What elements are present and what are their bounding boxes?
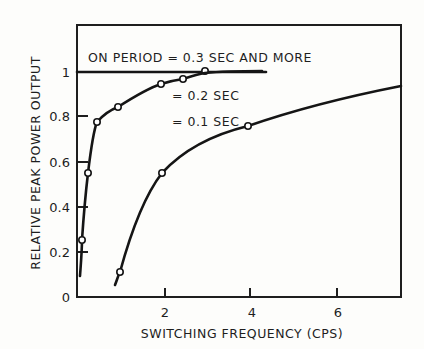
y-tick-0.6: 0.6 <box>49 155 70 170</box>
y-tick-0: 0 <box>62 290 70 305</box>
x-tick-6: 6 <box>334 305 342 320</box>
y-axis-label: RELATIVE PEAK POWER OUTPUT <box>28 56 43 270</box>
y-tick-0.8: 0.8 <box>49 109 70 124</box>
x-tick-4: 4 <box>248 305 256 320</box>
x-tick-2: 2 <box>161 305 169 320</box>
series-0.1sec-curve <box>115 86 401 285</box>
annotation-0.1sec: = 0.1 SEC <box>172 114 239 129</box>
series-0.1sec-points <box>117 123 251 275</box>
annotation-0.2sec: = 0.2 SEC <box>172 88 239 103</box>
y-tick-1: 1 <box>62 65 70 80</box>
y-tick-0.2: 0.2 <box>49 245 70 260</box>
x-axis-ticks <box>165 288 337 297</box>
annotation-0.3sec: ON PERIOD = 0.3 SEC AND MORE <box>88 50 312 65</box>
y-tick-0.4: 0.4 <box>49 200 70 215</box>
series-0.2sec-points <box>79 76 186 243</box>
chart: 0 0.2 0.4 0.6 0.8 1 2 4 6 SWITCHING FREQ… <box>0 0 424 349</box>
x-axis-label: SWITCHING FREQUENCY (CPS) <box>141 326 343 341</box>
